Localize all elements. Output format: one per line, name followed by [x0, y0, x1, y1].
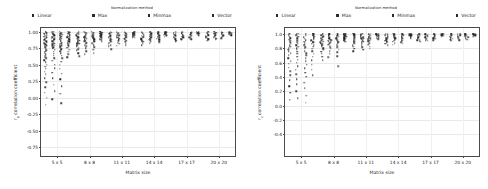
data-point	[322, 60, 324, 62]
data-point	[330, 48, 332, 50]
data-point	[288, 85, 290, 87]
legend-label: Minmax	[397, 13, 415, 18]
data-point	[289, 92, 291, 94]
x-gridline	[431, 28, 432, 156]
data-point	[306, 95, 308, 97]
data-point	[304, 72, 306, 74]
data-point	[443, 35, 445, 37]
data-point	[78, 34, 80, 36]
data-point	[289, 99, 291, 101]
y-gridline	[285, 120, 479, 121]
legend-item-max[interactable]: Max	[336, 13, 351, 18]
data-point	[62, 58, 64, 60]
data-point	[297, 33, 299, 35]
y-tick-mark	[39, 147, 41, 148]
data-point	[181, 39, 183, 41]
data-point	[85, 48, 87, 50]
plot-area: 1.00.80.60.40.20.0-0.2-0.45 x 58 x 811 x…	[284, 27, 480, 157]
data-point	[78, 56, 80, 58]
plot-area: 1.000.750.500.250.00-0.25-0.50-0.755 x 5…	[40, 27, 236, 157]
data-point	[410, 37, 412, 39]
legend-item-linear[interactable]: Linear	[32, 13, 52, 18]
data-point	[44, 71, 46, 73]
data-point	[304, 88, 306, 90]
data-point	[60, 79, 62, 81]
data-point	[297, 98, 299, 100]
data-point	[369, 48, 371, 50]
data-point	[46, 81, 48, 83]
legend-item-minmax[interactable]: Minmax	[392, 13, 416, 18]
data-point	[288, 55, 290, 57]
data-point	[44, 87, 46, 89]
data-point	[295, 69, 297, 71]
data-point	[459, 34, 461, 36]
x-tick-mark	[57, 156, 58, 158]
y-gridline	[285, 91, 479, 92]
x-tick-mark	[90, 156, 91, 158]
data-point	[322, 49, 324, 51]
data-point	[305, 57, 307, 59]
data-point	[451, 40, 453, 42]
y-gridline	[285, 106, 479, 107]
data-point	[289, 80, 291, 82]
x-gridline	[90, 28, 91, 156]
legend-item-minmax[interactable]: Minmax	[148, 13, 172, 18]
legend-item-vector[interactable]: Vector	[456, 13, 476, 18]
x-gridline	[122, 28, 123, 156]
data-point	[46, 64, 48, 66]
data-point	[305, 60, 307, 62]
data-point	[322, 56, 324, 58]
data-point	[78, 43, 80, 45]
y-axis-label: rs correlation coefficient	[256, 27, 266, 157]
data-point	[296, 62, 298, 64]
square-marker-icon	[32, 14, 34, 16]
data-point	[53, 55, 55, 57]
data-point	[67, 56, 69, 58]
x-tick-mark	[154, 156, 155, 158]
data-point	[108, 46, 110, 48]
data-point	[44, 77, 46, 79]
data-point	[402, 43, 404, 45]
legend-item-linear[interactable]: Linear	[276, 13, 296, 18]
data-point	[53, 58, 55, 60]
data-point	[45, 73, 47, 75]
legend-label: Linear	[281, 13, 295, 18]
x-tick-mark	[398, 156, 399, 158]
data-point	[296, 78, 298, 80]
y-tick-label: 0.00	[28, 95, 38, 100]
data-point	[328, 57, 330, 59]
x-tick-label: 5 x 5	[296, 160, 307, 165]
y-tick-mark	[283, 91, 285, 92]
data-point	[45, 68, 47, 70]
data-point	[303, 82, 305, 84]
data-point	[110, 32, 112, 34]
y-tick-mark	[283, 77, 285, 78]
x-axis-label: Matrix size	[284, 170, 480, 175]
y-gridline	[41, 131, 235, 132]
data-point	[458, 39, 460, 41]
y-tick-mark	[283, 63, 285, 64]
data-point	[385, 43, 387, 45]
legend-item-max[interactable]: Max	[92, 13, 107, 18]
data-point	[61, 73, 63, 75]
y-tick-mark	[39, 131, 41, 132]
figure: Normalization method Linear Max Minmax V…	[0, 0, 488, 189]
data-point	[45, 104, 47, 106]
data-point	[54, 91, 56, 93]
data-point	[134, 37, 136, 39]
y-tick-label: -0.4	[273, 132, 282, 137]
x-gridline	[187, 28, 188, 156]
y-tick-mark	[39, 32, 41, 33]
x-axis-label: Matrix size	[40, 170, 236, 175]
data-point	[329, 53, 331, 55]
data-point	[51, 60, 53, 62]
legend-item-vector[interactable]: Vector	[212, 13, 232, 18]
y-tick-mark	[39, 114, 41, 115]
y-tick-label: 1.0	[275, 31, 282, 36]
square-marker-icon	[456, 14, 458, 16]
data-point	[60, 93, 62, 95]
legend-items: Linear Max Minmax Vector	[26, 13, 238, 18]
data-point	[473, 36, 475, 38]
y-tick-label: -0.25	[27, 112, 38, 117]
y-gridline	[41, 147, 235, 148]
